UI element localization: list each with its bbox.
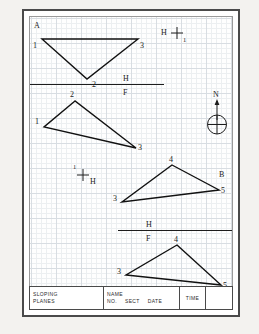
lower-fold-label-f: F: [146, 234, 151, 243]
triangle-lower-frontal-view: [126, 245, 221, 285]
sheet-corner-label-a: A: [34, 21, 40, 30]
title-block-subject-line1: SLOPING: [33, 291, 100, 298]
title-block-subject-line2: PLANES: [33, 298, 100, 305]
vertex-label-upper-fv-1: 1: [35, 117, 39, 126]
triangle-lower-horizontal-view: [122, 165, 219, 202]
compass-label-north: N: [213, 90, 219, 99]
h1-crosshair-middle: [77, 169, 89, 181]
technical-drawing: A B 1 3 2 H F 2 1 3: [30, 17, 233, 310]
lower-fold-label-h: H: [146, 220, 152, 229]
title-block-sect-label: SECT: [125, 298, 140, 305]
h1-crosshair-middle-label-h: H: [90, 177, 96, 186]
drawing-sheet-frame: A B 1 3 2 H F 2 1 3: [22, 9, 240, 317]
title-block-time-cell[interactable]: TIME: [180, 287, 206, 309]
upper-fold-label-h: H: [123, 74, 129, 83]
h1-crosshair-top-right: [171, 27, 183, 39]
vertex-label-lower-fv-3: 3: [117, 267, 121, 276]
drawing-sheet-background: A B 1 3 2 H F 2 1 3: [0, 0, 259, 334]
vertex-label-lower-hv-4: 4: [169, 155, 173, 164]
title-block-date-label: DATE: [148, 298, 162, 305]
title-block-name-label: NAME: [107, 291, 176, 298]
vertex-label-top-hv-3: 3: [140, 41, 144, 50]
title-block-blank-cell[interactable]: [206, 287, 232, 309]
title-block-time-label: TIME: [183, 295, 202, 302]
title-block-subject-cell: SLOPING PLANES: [30, 287, 104, 309]
vertex-label-lower-hv-3: 3: [113, 194, 117, 203]
vertex-label-top-hv-1: 1: [33, 41, 37, 50]
title-block-no-label: NO.: [107, 298, 117, 305]
title-block: SLOPING PLANES NAME NO. SECT DATE TIME: [29, 286, 233, 310]
vertex-label-lower-hv-5: 5: [221, 186, 225, 195]
title-block-name-cell[interactable]: NAME NO. SECT DATE: [104, 287, 180, 309]
h1-crosshair-top-right-label-1: 1: [183, 36, 186, 43]
vertex-label-upper-fv-2: 2: [70, 90, 74, 99]
h1-crosshair-top-right-label-h: H: [161, 28, 167, 37]
grid-work-area: A B 1 3 2 H F 2 1 3: [29, 16, 233, 310]
upper-fold-label-f: F: [123, 88, 128, 97]
sheet-side-label-b: B: [219, 170, 224, 179]
vertex-label-upper-fv-3: 3: [138, 143, 142, 152]
triangle-top-horizontal-view: [42, 39, 138, 79]
compass-rose-icon: [208, 99, 227, 134]
triangle-upper-frontal-view: [44, 101, 136, 148]
vertex-label-lower-fv-4: 4: [174, 235, 178, 244]
h1-crosshair-middle-label-1: 1: [73, 163, 76, 170]
